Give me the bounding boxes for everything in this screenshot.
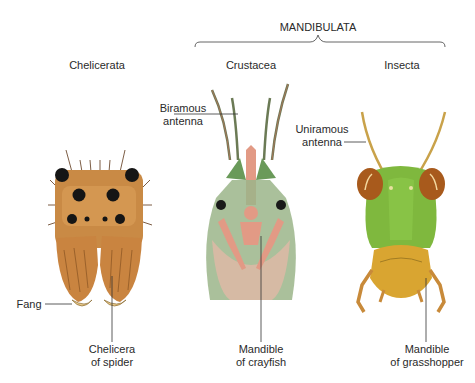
label-uniramous-antenna: Uniramous antenna	[292, 123, 352, 149]
label-chelicera-line2: of spider	[82, 356, 142, 369]
label-biramous-line2: antenna	[158, 115, 208, 128]
label-fang: Fang	[14, 298, 44, 311]
label-mandible-grasshopper-line1: Mandible	[384, 343, 470, 356]
label-mandible-crayfish-line1: Mandible	[226, 343, 296, 356]
label-mandible-crayfish-line2: of crayfish	[226, 356, 296, 369]
label-chelicera-line1: Chelicera	[82, 343, 142, 356]
column-title-crustacea: Crustacea	[215, 59, 287, 72]
label-biramous-line1: Biramous	[158, 102, 208, 115]
illustration	[0, 0, 475, 383]
label-mandible-grasshopper: Mandible of grasshopper	[384, 343, 470, 369]
spider-head-illustration	[48, 150, 152, 306]
label-chelicera: Chelicera of spider	[82, 343, 142, 369]
group-label-mandibulata: MANDIBULATA	[278, 21, 358, 34]
grasshopper-head-illustration	[357, 112, 445, 312]
column-title-chelicerata: Chelicerata	[55, 59, 139, 72]
mandibulata-brace	[195, 35, 445, 47]
label-mandible-crayfish: Mandible of crayfish	[226, 343, 296, 369]
crayfish-head-illustration	[206, 84, 296, 300]
label-mandible-grasshopper-line2: of grasshopper	[384, 356, 470, 369]
label-uniramous-line1: Uniramous	[292, 123, 352, 136]
label-biramous-antenna: Biramous antenna	[158, 102, 208, 128]
label-uniramous-line2: antenna	[292, 136, 352, 149]
column-title-insecta: Insecta	[370, 59, 434, 72]
arthropod-mouthparts-diagram: MANDIBULATA Chelicerata Crustacea Insect…	[0, 0, 475, 383]
